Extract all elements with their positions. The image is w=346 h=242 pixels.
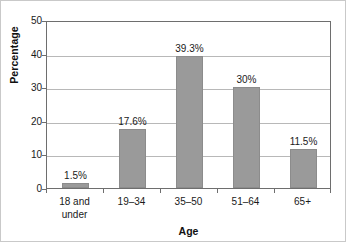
bar-group: 39.3% <box>176 22 202 188</box>
x-axis-tick-label: 35–50 <box>160 195 217 208</box>
x-axis-tick-label: 19–34 <box>103 195 160 208</box>
x-axis-tick-mark <box>217 189 218 193</box>
x-axis-tick-label: 65+ <box>274 195 331 208</box>
x-axis-tick-labels: 18 and under19–3435–5051–6465+ <box>46 195 331 229</box>
bar-group: 11.5% <box>290 22 316 188</box>
x-axis-tick-mark <box>160 189 161 193</box>
bar[interactable] <box>119 129 145 188</box>
x-axis-tick-mark <box>274 189 275 193</box>
bar-value-label: 17.6% <box>105 116 159 127</box>
bar[interactable] <box>62 183 88 188</box>
x-axis-tick-marks <box>46 189 331 194</box>
bar-group: 17.6% <box>119 22 145 188</box>
y-axis-tick-label: 10 <box>16 150 42 160</box>
x-axis-tick-label: 51–64 <box>217 195 274 208</box>
bar-value-label: 1.5% <box>48 170 102 181</box>
bar-group: 1.5% <box>62 22 88 188</box>
x-axis-tick-mark <box>46 189 47 193</box>
y-axis-tick-label: 0 <box>16 184 42 194</box>
bar[interactable] <box>233 87 259 188</box>
x-axis-tick-label: 18 and under <box>46 195 103 221</box>
bar-value-label: 11.5% <box>276 136 330 147</box>
bar-group: 30% <box>233 22 259 188</box>
bar[interactable] <box>290 149 316 188</box>
bar-chart-figure: 01020304050 Percentage 1.5%17.6%39.3%30%… <box>0 0 346 242</box>
bar-value-label: 30% <box>219 74 273 85</box>
plot-area: 1.5%17.6%39.3%30%11.5% <box>46 21 331 189</box>
x-axis-tick-mark <box>330 189 331 193</box>
y-axis-tick-label: 20 <box>16 117 42 127</box>
x-axis-title: Age <box>46 225 331 237</box>
y-axis-title: Percentage <box>8 0 20 115</box>
bar-value-label: 39.3% <box>162 43 216 54</box>
x-axis-tick-mark <box>103 189 104 193</box>
bar[interactable] <box>176 56 202 188</box>
